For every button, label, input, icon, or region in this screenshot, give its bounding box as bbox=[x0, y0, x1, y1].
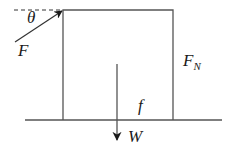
block-outline bbox=[63, 10, 173, 120]
normal-force-label-main: F bbox=[183, 51, 193, 70]
friction-label: f bbox=[138, 97, 143, 114]
applied-force-label: F bbox=[18, 42, 28, 59]
applied-force-arrow bbox=[15, 11, 62, 42]
normal-force-label: FN bbox=[183, 52, 201, 72]
weight-label: W bbox=[128, 128, 142, 145]
angle-theta-label: θ bbox=[27, 9, 35, 26]
free-body-diagram: θ F FN f W bbox=[0, 0, 233, 150]
normal-force-label-sub: N bbox=[193, 60, 200, 72]
